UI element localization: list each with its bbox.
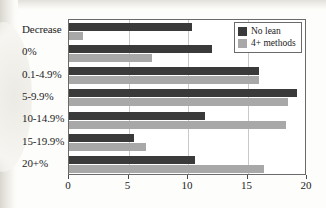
y-axis-label-4: 10-14.9% bbox=[22, 112, 64, 124]
y-axis-label-2: 0.1-4.9% bbox=[22, 68, 62, 80]
y-axis-label-0: Decrease bbox=[22, 23, 62, 35]
legend-swatch-icon-0 bbox=[238, 27, 247, 36]
y-axis-label-5: 15-19.9% bbox=[22, 135, 64, 147]
y-axis-label-6: 20+% bbox=[22, 157, 48, 169]
chart-legend: No lean4+ methods bbox=[234, 22, 302, 53]
legend-item-0: No lean bbox=[238, 26, 297, 37]
y-axis-label-3: 5-9.9% bbox=[22, 90, 53, 102]
x-tick-label-20: 20 bbox=[301, 179, 312, 191]
x-tick-label-15: 15 bbox=[241, 179, 252, 191]
horizontal-bar-chart: Decrease0%0.1-4.9%5-9.9%10-14.9%15-19.9%… bbox=[0, 0, 326, 208]
legend-item-1: 4+ methods bbox=[238, 38, 297, 49]
x-axis-tick-labels: 05101520 bbox=[68, 179, 306, 195]
x-tick-label-10: 10 bbox=[182, 179, 193, 191]
x-tick-label-5: 5 bbox=[125, 179, 131, 191]
x-tick-label-0: 0 bbox=[65, 179, 71, 191]
legend-label-0: No lean bbox=[251, 26, 281, 37]
legend-swatch-icon-1 bbox=[238, 39, 247, 48]
y-axis-label-1: 0% bbox=[22, 45, 36, 57]
legend-label-1: 4+ methods bbox=[251, 38, 296, 49]
